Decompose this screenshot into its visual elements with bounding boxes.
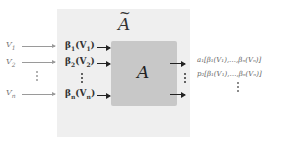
beta-arrow-2 bbox=[97, 63, 110, 64]
input-arrow-1 bbox=[22, 46, 55, 47]
beta-function-1: β1(V1) bbox=[65, 40, 95, 52]
beta-function-n: βn(Vn) bbox=[65, 88, 95, 100]
input-arrow-2 bbox=[22, 62, 55, 63]
output-arrow-2 bbox=[170, 94, 185, 95]
output-label-1: a₁[β₁(V₁),…,βₙ(Vₙ)] bbox=[197, 56, 261, 64]
output-ellipsis bbox=[237, 82, 239, 94]
input-arrow-n bbox=[22, 94, 55, 95]
inner-module-label: A bbox=[137, 62, 149, 82]
input-label-2: V2 bbox=[6, 57, 16, 68]
input-ellipsis bbox=[36, 71, 38, 83]
beta-ellipsis bbox=[81, 73, 83, 85]
beta-function-2: β2(V2) bbox=[65, 56, 95, 68]
output-arrow-ellipsis bbox=[184, 73, 186, 85]
output-label-2: p₂[β₁(V₁),…,βₙ(Vₙ)] bbox=[197, 70, 262, 78]
beta-arrow-n bbox=[97, 95, 110, 96]
outer-module-title: ~ A bbox=[118, 14, 130, 34]
tilde-accent: ~ bbox=[119, 5, 131, 21]
input-label-n: Vn bbox=[6, 88, 16, 99]
input-label-1: V1 bbox=[6, 40, 16, 51]
beta-arrow-1 bbox=[97, 47, 110, 48]
output-arrow-1 bbox=[170, 63, 185, 64]
